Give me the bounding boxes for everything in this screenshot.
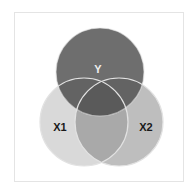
set-x2-label: X2 (139, 121, 152, 133)
venn-diagram: Y X1 X2 (0, 0, 196, 196)
set-y-label: Y (94, 63, 102, 75)
set-x1-label: X1 (53, 121, 66, 133)
